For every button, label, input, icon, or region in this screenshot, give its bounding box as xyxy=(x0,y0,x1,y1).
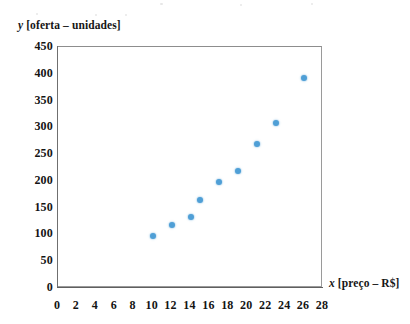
scan-artifact xyxy=(95,14,97,16)
y-tick-label: 300 xyxy=(13,119,53,134)
x-axis-title: x [preço – R$] xyxy=(329,277,400,289)
y-tick-label: 50 xyxy=(13,253,53,268)
y-tick-label: 100 xyxy=(13,226,53,241)
y-tick-label: 250 xyxy=(13,146,53,161)
y-axis-tick-labels: 050100150200250300350400450 xyxy=(8,0,53,324)
y-tick-label: 0 xyxy=(13,280,53,295)
scan-artifact xyxy=(160,3,163,5)
data-point-marker xyxy=(273,120,279,126)
data-point-marker xyxy=(150,233,156,239)
x-tick-label: 28 xyxy=(307,298,337,313)
x-axis-line xyxy=(57,287,323,288)
y-tick-label: 200 xyxy=(13,172,53,187)
data-point-marker xyxy=(301,75,307,81)
y-tick-label: 400 xyxy=(13,65,53,80)
data-point-marker xyxy=(235,168,241,174)
data-point-marker xyxy=(197,197,203,203)
y-tick-label: 350 xyxy=(13,92,53,107)
plot-area xyxy=(57,46,322,287)
x-axis-units: [preço – R$] xyxy=(335,277,400,289)
scatter-chart-figure: y [oferta – unidades] x [preço – R$] 050… xyxy=(0,0,410,324)
y-axis-line xyxy=(57,46,58,288)
y-tick-label: 150 xyxy=(13,199,53,214)
data-point-marker xyxy=(169,222,175,228)
scan-artifact xyxy=(125,14,127,16)
data-point-marker xyxy=(254,141,260,147)
scan-artifact xyxy=(311,3,313,5)
data-point-marker xyxy=(216,179,222,185)
y-tick-label: 450 xyxy=(13,39,53,54)
data-point-marker xyxy=(188,214,194,220)
scan-artifact xyxy=(240,4,242,6)
x-axis-tick-labels: 0246810121416182022242628 xyxy=(0,298,410,318)
